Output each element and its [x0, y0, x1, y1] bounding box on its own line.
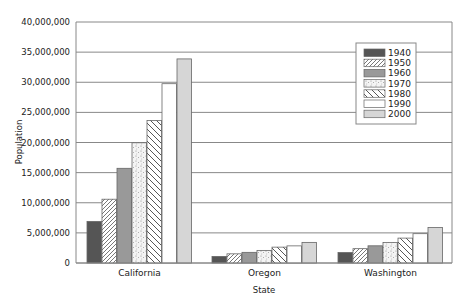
- bar-washington-1960: [368, 246, 383, 263]
- population-bar-chart: 05,000,00010,000,00015,000,00020,000,000…: [0, 0, 467, 307]
- legend-label: 1960: [388, 68, 411, 78]
- bar-california-1940: [87, 221, 102, 263]
- y-axis-label: Population: [14, 120, 24, 165]
- x-axis-label: State: [253, 285, 276, 295]
- bar-oregon-1940: [212, 256, 227, 263]
- y-tick-label: 30,000,000: [21, 77, 70, 87]
- y-tick-label: 25,000,000: [21, 107, 70, 117]
- legend-swatch-1980: [364, 90, 385, 98]
- bar-california-2000: [177, 59, 192, 263]
- legend-label: 1970: [388, 79, 411, 89]
- x-category-label: Washington: [364, 268, 417, 278]
- x-category-label: Oregon: [248, 268, 281, 278]
- bar-washington-2000: [428, 227, 443, 263]
- y-tick-label: 5,000,000: [27, 228, 70, 238]
- bar-california-1980: [147, 120, 162, 263]
- y-tick-label: 15,000,000: [21, 168, 70, 178]
- bar-washington-1980: [398, 238, 413, 263]
- x-category-label: California: [118, 268, 161, 278]
- legend-label: 2000: [388, 109, 411, 119]
- bar-california-1990: [162, 84, 177, 263]
- bar-oregon-1960: [242, 252, 257, 263]
- y-tick-label: 0: [65, 258, 70, 268]
- legend-label: 1950: [388, 58, 411, 68]
- legend-label: 1990: [388, 99, 411, 109]
- bar-oregon-1980: [272, 247, 287, 263]
- legend-swatch-1950: [364, 59, 385, 66]
- legend-swatch-1940: [364, 49, 385, 57]
- bar-california-1970: [132, 143, 147, 263]
- legend-swatch-1960: [364, 69, 385, 77]
- legend-swatch-2000: [364, 110, 385, 118]
- bar-oregon-2000: [302, 242, 317, 263]
- legend-swatch-1990: [364, 100, 385, 108]
- bar-california-1960: [117, 168, 132, 263]
- bar-washington-1940: [338, 253, 353, 263]
- y-tick-label: 35,000,000: [21, 47, 70, 57]
- legend: 1940195019601970198019902000: [356, 43, 416, 124]
- bar-oregon-1970: [257, 250, 272, 263]
- y-tick-label: 20,000,000: [21, 138, 70, 148]
- legend-label: 1940: [388, 48, 411, 58]
- legend-label: 1980: [388, 89, 411, 99]
- bar-oregon-1990: [287, 246, 302, 263]
- bar-washington-1970: [383, 242, 398, 263]
- bar-california-1950: [102, 199, 117, 263]
- bar-washington-1990: [413, 234, 428, 263]
- bar-oregon-1950: [227, 254, 242, 263]
- x-category-labels: CaliforniaOregonWashington: [118, 268, 417, 278]
- bar-washington-1950: [353, 249, 368, 263]
- y-tick-label: 10,000,000: [21, 198, 70, 208]
- y-tick-labels: 05,000,00010,000,00015,000,00020,000,000…: [21, 17, 70, 268]
- legend-swatch-1970: [364, 80, 385, 88]
- y-tick-label: 40,000,000: [21, 17, 70, 27]
